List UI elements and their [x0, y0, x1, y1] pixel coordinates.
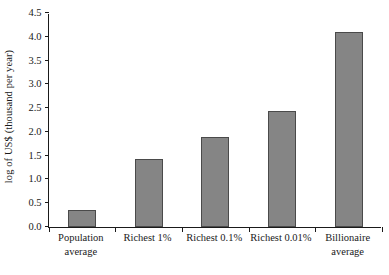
- plot-area: 0.00.51.01.52.02.53.03.54.04.5: [48, 14, 382, 228]
- bar: [201, 137, 229, 227]
- x-axis-category-label: Billionaireaverage: [302, 231, 389, 258]
- x-axis-category-labels: PopulationaverageRichest 1%Richest 0.1%R…: [48, 231, 382, 275]
- y-axis-tick: 2.0: [45, 131, 49, 132]
- x-axis-category-label-line1: Population: [58, 232, 104, 243]
- y-axis-tick-label: 3.0: [28, 79, 41, 90]
- y-axis-tick: 1.0: [45, 178, 49, 179]
- y-axis-tick-label: 4.5: [28, 8, 41, 19]
- y-axis-tick-label: 2.5: [28, 103, 41, 114]
- y-axis-tick: 1.5: [45, 155, 49, 156]
- y-axis-tick-label: 2.0: [28, 127, 41, 138]
- x-axis-category-label-line1: Richest 1%: [123, 232, 171, 243]
- y-axis-tick-label: 1.5: [28, 150, 41, 161]
- y-axis-tick: 4.5: [45, 12, 49, 13]
- bar-chart-figure: log of US$ (thousand per year) 0.00.51.0…: [0, 0, 389, 275]
- y-axis-tick: 2.5: [45, 107, 49, 108]
- bar: [68, 210, 96, 227]
- y-axis-tick: 0.5: [45, 202, 49, 203]
- y-axis-tick-label: 0.5: [28, 198, 41, 209]
- y-axis-tick-label: 4.0: [28, 32, 41, 43]
- y-axis-title-text: log of US$ (thousand per year): [4, 49, 15, 182]
- bar: [135, 159, 163, 227]
- x-axis-category-label-line1: Richest 0.1%: [186, 232, 242, 243]
- y-axis-tick-label: 1.0: [28, 174, 41, 185]
- y-axis-title: log of US$ (thousand per year): [0, 0, 18, 232]
- y-axis-tick: 3.0: [45, 83, 49, 84]
- y-axis-tick: 3.5: [45, 60, 49, 61]
- x-axis-category-label-line2: average: [302, 245, 389, 259]
- y-axis-tick: 4.0: [45, 36, 49, 37]
- bar: [268, 111, 296, 228]
- x-axis-category-label-line2: average: [36, 245, 127, 259]
- bar: [335, 32, 363, 227]
- y-axis-tick-label: 3.5: [28, 55, 41, 66]
- x-axis-category-label-line1: Billionaire: [325, 232, 370, 243]
